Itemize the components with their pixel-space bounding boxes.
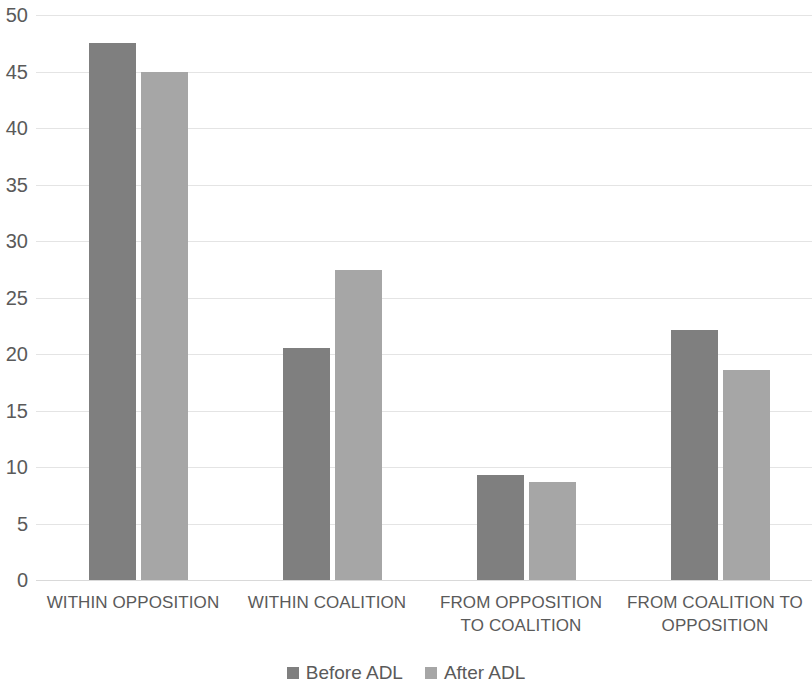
legend-label: After ADL — [444, 663, 525, 682]
bar — [283, 348, 330, 580]
y-tick-label: 30 — [6, 231, 28, 251]
bar — [141, 72, 188, 581]
legend-swatch-icon — [287, 667, 299, 679]
bar-chart: 05101520253035404550 WITHIN OPPOSITIONWI… — [0, 0, 812, 691]
legend-item[interactable]: After ADL — [425, 663, 525, 682]
bar — [335, 270, 382, 580]
x-axis-label-line: OPPOSITION — [618, 615, 812, 638]
chart-legend: Before ADLAfter ADL — [0, 663, 812, 682]
legend-label: Before ADL — [306, 663, 403, 682]
gridline-50 — [36, 15, 812, 16]
y-tick-label: 20 — [6, 344, 28, 364]
y-axis: 05101520253035404550 — [0, 0, 36, 691]
y-tick-label: 5 — [17, 514, 28, 534]
bar — [671, 330, 718, 580]
x-axis-label-line: FROM OPPOSITION — [424, 592, 618, 615]
y-tick-label: 45 — [6, 62, 28, 82]
plot-area — [36, 15, 812, 580]
bar — [89, 43, 136, 580]
y-tick-label: 50 — [6, 5, 28, 25]
x-axis-category-labels: WITHIN OPPOSITIONWITHIN COALITIONFROM OP… — [36, 592, 812, 652]
legend-item[interactable]: Before ADL — [287, 663, 403, 682]
y-tick-label: 25 — [6, 288, 28, 308]
x-axis-label-line: FROM COALITION TO — [618, 592, 812, 615]
bar — [529, 482, 576, 580]
y-tick-label: 35 — [6, 175, 28, 195]
legend-swatch-icon — [425, 667, 437, 679]
x-axis-label: WITHIN OPPOSITION — [36, 592, 230, 615]
x-axis-label: WITHIN COALITION — [230, 592, 424, 615]
x-axis-label: FROM OPPOSITIONTO COALITION — [424, 592, 618, 638]
x-axis-label-line: WITHIN OPPOSITION — [36, 592, 230, 615]
bar — [477, 475, 524, 580]
y-tick-label: 40 — [6, 118, 28, 138]
y-tick-label: 10 — [6, 457, 28, 477]
bar — [723, 370, 770, 580]
x-axis-label-line: WITHIN COALITION — [230, 592, 424, 615]
y-tick-label: 15 — [6, 401, 28, 421]
x-axis-label: FROM COALITION TOOPPOSITION — [618, 592, 812, 638]
y-tick-label: 0 — [17, 570, 28, 590]
x-axis-label-line: TO COALITION — [424, 615, 618, 638]
gridline-0 — [36, 580, 812, 581]
